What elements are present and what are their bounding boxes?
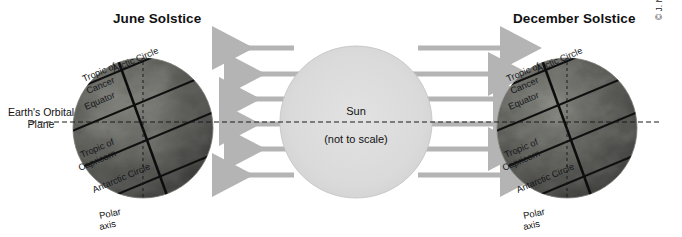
orbital-plane-label-line1: Earth's Orbital: [2, 106, 80, 118]
june-label-polar-axis-2: axis: [98, 218, 117, 232]
copyright-notice: © J. Nijman, M. Shin, P. O. Muller, and …: [648, 0, 670, 22]
page-title-june-solstice: June Solstice: [113, 11, 201, 26]
orbital-plane-label-line2: Plane: [2, 118, 80, 130]
diagram-canvas: Arctic Circle Tropic of Cancer Equator T…: [0, 0, 682, 237]
globe-december-solstice: Arctic Circle Tropic of Cancer Equator T…: [480, 24, 656, 237]
globe-june-solstice: Arctic Circle Tropic of Cancer Equator T…: [56, 24, 232, 237]
december-label-polar-axis-2: axis: [522, 218, 541, 232]
earths-orbital-plane-label: Earth's Orbital Plane: [2, 106, 80, 130]
sun-label: Sun: [306, 105, 406, 117]
solstice-diagram: Arctic Circle Tropic of Cancer Equator T…: [0, 0, 682, 237]
page-title-december-solstice: December Solstice: [513, 11, 636, 26]
sun-not-to-scale-note: (not to scale): [301, 133, 411, 145]
